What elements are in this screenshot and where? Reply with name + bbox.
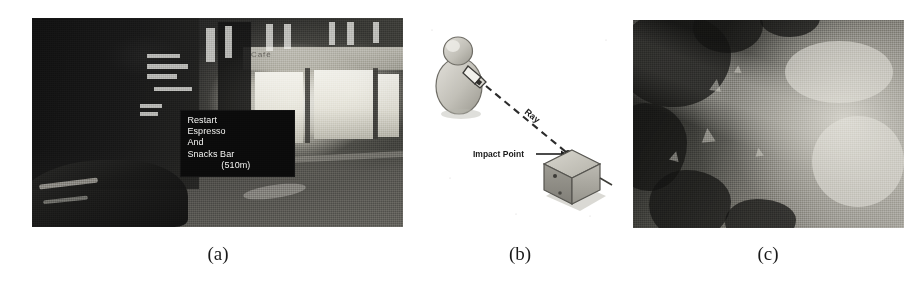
window-mullion bbox=[373, 68, 377, 139]
ar-label-distance: (510m) bbox=[187, 160, 290, 171]
neon-light-strip bbox=[206, 28, 214, 61]
neon-light-strip bbox=[329, 22, 336, 45]
raycast-diagram-svg: Ray Impact Point bbox=[420, 18, 620, 227]
vegetation-patch bbox=[649, 170, 730, 228]
ar-overlay-label: Restart Espresso And Snacks Bar (510m) bbox=[180, 110, 295, 177]
person-shadow bbox=[441, 109, 481, 119]
parked-car bbox=[32, 160, 188, 227]
person-head bbox=[444, 37, 473, 65]
terrain-triangle-marker bbox=[709, 79, 722, 92]
ray-line bbox=[486, 86, 566, 152]
neon-light-strip bbox=[266, 24, 273, 51]
storefront-sign-text: Café bbox=[251, 50, 272, 59]
ar-label-line-1: Restart bbox=[187, 115, 290, 126]
terrain-triangle-marker bbox=[700, 127, 715, 142]
neon-light-strip bbox=[140, 104, 162, 108]
neon-light-strip bbox=[347, 22, 354, 45]
ar-label-line-4: Snacks Bar bbox=[187, 149, 290, 160]
caption-a: (a) bbox=[188, 243, 248, 265]
person-body bbox=[436, 58, 482, 114]
neon-light-strip bbox=[284, 24, 291, 49]
three-panel-figure: Café Restart Espresso And Snacks Bar (51… bbox=[0, 0, 923, 285]
neon-light-strip bbox=[140, 112, 159, 116]
person-head-highlight bbox=[446, 40, 460, 52]
ar-label-line-2: Espresso bbox=[187, 126, 290, 137]
neon-light-strip bbox=[225, 26, 232, 57]
neon-light-strip bbox=[147, 64, 188, 69]
terrain-bright-area bbox=[785, 41, 893, 103]
neon-light-strip bbox=[154, 87, 191, 91]
terrain-bright-area bbox=[812, 116, 904, 208]
ar-label-line-3: And bbox=[187, 137, 290, 148]
caption-b: (b) bbox=[490, 243, 550, 265]
neon-light-strip bbox=[147, 74, 177, 78]
shop-window bbox=[377, 74, 399, 137]
terrain-triangle-marker bbox=[754, 147, 764, 157]
neon-light-strip bbox=[147, 54, 180, 59]
window-mullion bbox=[305, 68, 310, 143]
shop-window bbox=[314, 70, 373, 139]
impact-point-label: Impact Point bbox=[473, 149, 524, 159]
ray-label: Ray bbox=[523, 107, 542, 125]
caption-c: (c) bbox=[738, 243, 798, 265]
panel-b-raycast-diagram: Ray Impact Point bbox=[420, 18, 620, 227]
terrain-triangle-marker bbox=[733, 64, 741, 72]
panel-c-aerial-terrain-photo bbox=[633, 20, 904, 228]
neon-light-strip bbox=[373, 22, 379, 43]
panel-a-night-street-photo: Café Restart Espresso And Snacks Bar (51… bbox=[32, 18, 403, 227]
